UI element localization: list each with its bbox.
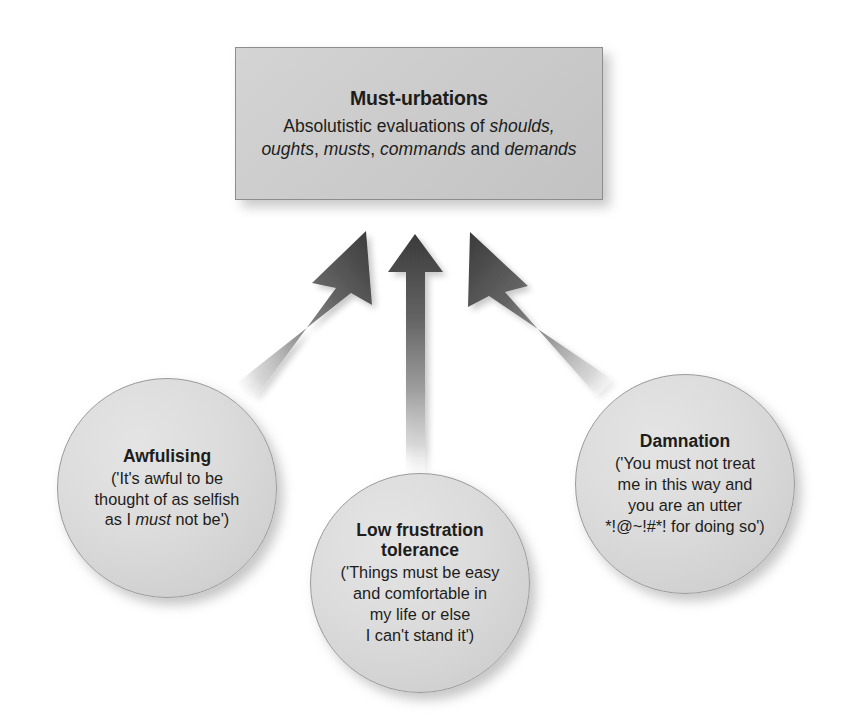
lft-quote-line-1: ('Things must be easy xyxy=(341,563,500,581)
damnation-quote-line-3: you are an utter xyxy=(628,496,742,514)
lft-quote-line-2: and comfortable in xyxy=(353,584,487,602)
central-desc-sep-b: , xyxy=(370,139,380,159)
damnation-quote-line-2: me in this way and xyxy=(618,475,753,493)
arrow-damnation-to-must-urbations xyxy=(468,232,613,396)
central-desc-demands: demands xyxy=(505,139,577,159)
central-node-title: Must-urbations xyxy=(350,87,488,110)
central-desc-line1-prefix: Absolutistic evaluations of xyxy=(283,116,489,136)
awfulising-quote-line-2: thought of as selfish xyxy=(95,490,240,508)
node-damnation-quote: ('You must not treat me in this way and … xyxy=(605,453,764,536)
lft-title-line-2: tolerance xyxy=(381,540,459,560)
central-node-must-urbations: Must-urbations Absolutistic evaluations … xyxy=(235,47,603,200)
arrow-lft-to-must-urbations xyxy=(388,234,443,476)
node-awfulising-title: Awfulising xyxy=(123,446,211,466)
lft-quote-line-4: I can't stand it') xyxy=(366,626,474,644)
central-node-description: Absolutistic evaluations of shoulds, oug… xyxy=(261,115,576,160)
central-desc-line1-italic: shoulds, xyxy=(490,116,555,136)
central-desc-musts: musts xyxy=(324,139,371,159)
central-desc-sep-a: , xyxy=(314,139,324,159)
node-damnation-title: Damnation xyxy=(640,431,730,451)
node-awfulising: Awfulising ('It's awful to be thought of… xyxy=(57,378,277,598)
diagram-canvas: Must-urbations Absolutistic evaluations … xyxy=(0,0,845,725)
node-damnation: Damnation ('You must not treat me in thi… xyxy=(575,374,795,594)
node-lft-title: Low frustration tolerance xyxy=(356,520,483,560)
node-low-frustration-tolerance: Low frustration tolerance ('Things must … xyxy=(310,473,530,693)
lft-title-line-1: Low frustration xyxy=(356,520,483,540)
node-awfulising-quote: ('It's awful to be thought of as selfish… xyxy=(95,468,240,531)
central-desc-commands: commands xyxy=(380,139,466,159)
lft-quote-line-3: my life or else xyxy=(370,605,470,623)
damnation-quote-line-4: *!@~!#*! for doing so') xyxy=(605,517,764,535)
awfulising-quote-line-3-pre: as I xyxy=(105,510,136,528)
central-desc-sep-c: and xyxy=(466,139,505,159)
arrow-awfulising-to-must-urbations xyxy=(237,231,372,397)
awfulising-quote-line-1: ('It's awful to be xyxy=(111,469,223,487)
awfulising-quote-line-3-italic: must xyxy=(136,510,171,528)
damnation-quote-line-1: ('You must not treat xyxy=(615,454,755,472)
node-lft-quote: ('Things must be easy and comfortable in… xyxy=(341,562,500,645)
awfulising-quote-line-3-post: not be') xyxy=(171,510,229,528)
central-desc-oughts: oughts xyxy=(261,139,314,159)
